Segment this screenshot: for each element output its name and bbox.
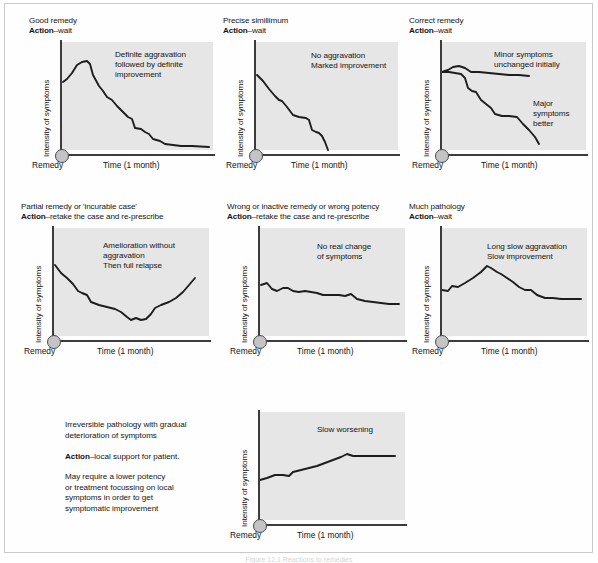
y-axis (258, 226, 260, 342)
panel-title-text: Irreversible pathology with gradual dete… (65, 420, 187, 439)
chart-partial-remedy: Intensity of symptoms Time (1 month) Rem… (21, 228, 221, 360)
panel-wrong-remedy: Wrong or inactive remedy or wrong potenc… (227, 202, 407, 362)
annotation-minor-symptoms: Minor symptoms unchanged initially (494, 50, 560, 70)
action-value: –wait (248, 26, 266, 35)
y-axis (440, 226, 442, 342)
panel-title-text: Precise simillimum (223, 16, 288, 25)
x-axis-label: Time (1 month) (297, 346, 353, 356)
annotation-text: Definite aggravation followed by definit… (115, 50, 186, 81)
action-label: Action (409, 26, 434, 35)
y-axis (440, 40, 442, 156)
panel-irreversible-pathology-chart: Intensity of symptoms Time (1 month) Rem… (227, 402, 407, 552)
x-axis (60, 154, 215, 156)
panel-title-precise-simillimum: Precise simillimum Action–wait (223, 16, 288, 37)
irreversible-pathology-description: Irreversible pathology with gradual dete… (65, 410, 223, 514)
action-label: Action (21, 212, 46, 221)
chart-precise-simillimum: Intensity of symptoms Time (1 month) Rem… (223, 42, 403, 174)
action-value: –wait (434, 26, 452, 35)
figure-frame: Good remedy Action–wait Intensity of sym… (4, 3, 593, 553)
origin-remedy-label: Remedy (412, 346, 443, 356)
y-axis (258, 410, 260, 526)
panel-title-text: Correct remedy (409, 16, 463, 25)
action-value: –wait (434, 212, 452, 221)
panel-precise-simillimum: Precise simillimum Action–wait Intensity… (223, 16, 403, 176)
annotation-text: Slow worsening (317, 425, 373, 435)
x-axis-label: Time (1 month) (97, 346, 153, 356)
y-axis-label: Intensity of symptoms (240, 266, 249, 343)
y-axis (254, 40, 256, 156)
action-value: –wait (54, 26, 72, 35)
x-axis (258, 340, 407, 342)
annotation-text: No aggravation Marked improvement (311, 51, 386, 71)
chart-irreversible-pathology: Intensity of symptoms Time (1 month) Rem… (227, 412, 407, 544)
panel-title-good-remedy: Good remedy Action–wait (29, 16, 77, 37)
x-axis-label: Time (1 month) (481, 160, 537, 170)
chart-correct-remedy: Intensity of symptoms Time (1 month) Rem… (409, 42, 589, 174)
action-value: –retake the case and re-prescribe (252, 212, 370, 221)
origin-remedy-label: Remedy (24, 346, 55, 356)
x-axis (440, 340, 589, 342)
action-label: Action (65, 452, 90, 461)
annotation-text: No real change of symptoms (317, 242, 371, 262)
y-axis (60, 40, 62, 156)
chart-much-pathology: Intensity of symptoms Time (1 month) Rem… (409, 228, 589, 360)
annotation-major-symptoms: Major symptoms better (533, 99, 569, 130)
panel-title-wrong-remedy: Wrong or inactive remedy or wrong potenc… (227, 202, 379, 223)
x-axis (258, 524, 407, 526)
y-axis-label: Intensity of symptoms (236, 80, 245, 157)
action-label: Action (29, 26, 54, 35)
panel-good-remedy: Good remedy Action–wait Intensity of sym… (29, 16, 219, 176)
y-axis-label: Intensity of symptoms (240, 450, 249, 527)
y-axis-label: Intensity of symptoms (422, 80, 431, 157)
x-axis-label: Time (1 month) (481, 346, 537, 356)
x-axis (254, 154, 400, 156)
x-axis-label: Time (1 month) (103, 160, 159, 170)
origin-remedy-label: Remedy (412, 160, 443, 170)
action-label: Action (227, 212, 252, 221)
chart-wrong-remedy: Intensity of symptoms Time (1 month) Rem… (227, 228, 407, 360)
figure-caption: Figure 12.1 Reactions to remedies (0, 556, 598, 563)
annotation-text: Long slow aggravation Slow improvement (487, 242, 567, 262)
origin-remedy-label: Remedy (230, 530, 261, 540)
y-axis-label: Intensity of symptoms (42, 80, 51, 157)
origin-remedy-label: Remedy (226, 160, 257, 170)
action-body-rest: May require a lower potency or treatment… (65, 472, 174, 512)
panel-title-text: Much pathology (409, 202, 465, 211)
panel-title-text: Wrong or inactive remedy or wrong potenc… (227, 202, 379, 211)
action-value: –retake the case and re-prescribe (46, 212, 164, 221)
panel-title-text: Partial remedy or 'incurable case' (21, 202, 137, 211)
panel-title-correct-remedy: Correct remedy Action–wait (409, 16, 463, 37)
annotation-text: Amelioration without aggravation Then fu… (103, 241, 175, 272)
panel-correct-remedy: Correct remedy Action–wait Intensity of … (409, 16, 589, 176)
panel-title-much-pathology: Much pathology Action–wait (409, 202, 465, 223)
y-axis-label: Intensity of symptoms (34, 266, 43, 343)
origin-remedy-label: Remedy (230, 346, 261, 356)
x-axis-label: Time (1 month) (291, 160, 347, 170)
y-axis (52, 226, 54, 342)
action-label: Action (223, 26, 248, 35)
x-axis-label: Time (1 month) (297, 530, 353, 540)
origin-remedy-label: Remedy (32, 160, 63, 170)
panel-title-partial-remedy: Partial remedy or 'incurable case' Actio… (21, 202, 163, 223)
action-label: Action (409, 212, 434, 221)
panel-title-text: Good remedy (29, 16, 77, 25)
panel-partial-remedy: Partial remedy or 'incurable case' Actio… (21, 202, 221, 362)
x-axis (440, 154, 588, 156)
panel-much-pathology: Much pathology Action–wait Intensity of … (409, 202, 589, 362)
x-axis (52, 340, 211, 342)
panel-irreversible-pathology-text: Irreversible pathology with gradual dete… (65, 410, 225, 520)
y-axis-label: Intensity of symptoms (422, 266, 431, 343)
chart-good-remedy: Intensity of symptoms Time (1 month) Rem… (29, 42, 219, 174)
action-value: –local support for patient. (90, 452, 180, 461)
